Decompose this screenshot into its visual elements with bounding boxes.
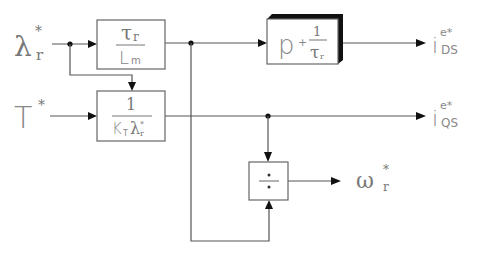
block-diagram: λ * r T * τ r L m 1 (0, 0, 482, 253)
arrow-slip-output (331, 177, 341, 185)
iqs-superscript: e* (440, 99, 453, 112)
i-symbol: i (432, 33, 438, 58)
tau-subscript: r (320, 52, 324, 61)
divide-icon-dot-bottom (268, 186, 271, 189)
lambda-subscript: r (140, 129, 144, 138)
tau-symbol: τ (121, 21, 132, 45)
K-subscript: T (122, 129, 128, 138)
slip-subscript: r (383, 180, 389, 194)
torque-ref-star: * (38, 97, 45, 113)
output-iqs-label: i e* QS (432, 99, 458, 131)
tau-symbol: τ (310, 42, 319, 62)
lambda-symbol: λ (14, 30, 32, 63)
arrow-into-flux-dynamics (258, 39, 267, 47)
one-symbol: 1 (126, 95, 136, 114)
block-flux-gain: τ r L m (97, 20, 165, 69)
slip-star: * (383, 163, 389, 177)
output-ids-label: i e* DS (432, 26, 458, 58)
ids-superscript: e* (440, 26, 453, 39)
block-divider (249, 162, 288, 200)
input-flux-ref-label: λ * r (14, 23, 44, 64)
arrow-iqs-output (416, 112, 426, 120)
input-torque-ref-label: T * (14, 97, 45, 135)
K-symbol: K (112, 120, 122, 138)
arrow-into-torque-gain-top (128, 82, 136, 91)
lambda-star: * (140, 120, 144, 129)
L-symbol: L (119, 47, 129, 68)
iqs-subscript: QS (441, 116, 458, 130)
block-torque-gain: 1 K T λ * r (97, 91, 165, 141)
tau-subscript: r (133, 30, 139, 44)
L-subscript: m (131, 55, 141, 66)
plus-symbol: + (298, 36, 307, 49)
torque-symbol: T (14, 100, 32, 135)
flux-ref-subscript: r (36, 46, 44, 64)
lambda-symbol: λ (130, 119, 140, 138)
arrow-into-torque-gain (88, 112, 97, 120)
output-slip-label: ω * r (356, 163, 389, 194)
i-symbol: i (432, 106, 438, 131)
flux-ref-star: * (35, 23, 42, 39)
arrow-into-divider-bottom (265, 200, 273, 209)
block-flux-dynamics: p + 1 τ r (267, 14, 343, 64)
arrow-ids-output (416, 39, 426, 47)
divide-icon-dot-top (268, 174, 271, 177)
arrow-into-divider-top (264, 152, 272, 162)
omega-symbol: ω (356, 168, 374, 193)
ids-subscript: DS (441, 43, 458, 57)
p-symbol: p (278, 30, 295, 60)
wire-to-divider-bottom (191, 43, 269, 241)
arrow-into-flux-gain (88, 40, 97, 48)
one-symbol: 1 (313, 24, 321, 39)
